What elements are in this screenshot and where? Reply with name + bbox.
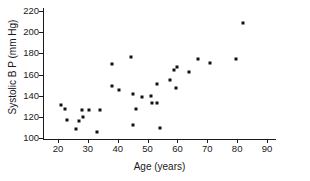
y-tick-mark bbox=[39, 53, 43, 54]
y-tick-label: 140 bbox=[23, 91, 39, 101]
data-point bbox=[234, 57, 237, 60]
data-point bbox=[130, 55, 133, 58]
y-tick-label: 100 bbox=[23, 133, 39, 143]
data-point bbox=[134, 108, 137, 111]
x-tick-label: 20 bbox=[53, 144, 64, 154]
data-point bbox=[59, 104, 62, 107]
data-point bbox=[174, 87, 177, 90]
data-point bbox=[82, 115, 85, 118]
y-tick-label: 120 bbox=[23, 112, 39, 122]
data-point bbox=[242, 21, 245, 24]
data-point bbox=[149, 94, 152, 97]
data-point bbox=[74, 128, 77, 131]
x-axis-title: Age (years) bbox=[43, 162, 276, 172]
y-tick-label: 220 bbox=[23, 6, 39, 16]
x-tick-label: 30 bbox=[83, 144, 94, 154]
y-axis-title: Systolic B P (mm Hg) bbox=[8, 2, 18, 132]
data-point bbox=[158, 127, 161, 130]
y-tick-label: 180 bbox=[23, 49, 39, 59]
x-tick-label: 90 bbox=[262, 144, 273, 154]
data-point bbox=[151, 102, 154, 105]
x-tick-label: 70 bbox=[202, 144, 213, 154]
plot-area: 100120140160180200220 2030405060708090 bbox=[43, 8, 276, 140]
y-tick-label: 200 bbox=[23, 28, 39, 38]
data-point bbox=[88, 109, 91, 112]
y-tick-mark bbox=[39, 32, 43, 33]
data-point bbox=[110, 85, 113, 88]
data-point bbox=[155, 83, 158, 86]
data-point bbox=[118, 89, 121, 92]
data-point bbox=[98, 109, 101, 112]
x-tick-label: 80 bbox=[232, 144, 243, 154]
data-point bbox=[188, 71, 191, 74]
data-point bbox=[77, 119, 80, 122]
y-tick-mark bbox=[39, 75, 43, 76]
y-tick-mark bbox=[39, 117, 43, 118]
x-tick-label: 50 bbox=[142, 144, 153, 154]
y-tick-label: 160 bbox=[23, 70, 39, 80]
x-axis-line bbox=[43, 139, 276, 140]
y-tick-mark bbox=[39, 11, 43, 12]
data-point bbox=[95, 130, 98, 133]
data-point bbox=[131, 92, 134, 95]
data-point bbox=[80, 109, 83, 112]
x-tick-label: 60 bbox=[172, 144, 183, 154]
data-point bbox=[173, 69, 176, 72]
data-point bbox=[140, 95, 143, 98]
data-point bbox=[168, 78, 171, 81]
data-point bbox=[110, 62, 113, 65]
data-point bbox=[65, 118, 68, 121]
data-point bbox=[197, 57, 200, 60]
data-point bbox=[176, 66, 179, 69]
data-point bbox=[131, 124, 134, 127]
x-tick-label: 40 bbox=[112, 144, 123, 154]
data-point bbox=[155, 102, 158, 105]
y-tick-mark bbox=[39, 138, 43, 139]
data-point bbox=[209, 61, 212, 64]
data-point bbox=[64, 108, 67, 111]
y-tick-mark bbox=[39, 96, 43, 97]
scatter-plot-figure: 100120140160180200220 2030405060708090 A… bbox=[0, 0, 310, 181]
y-axis-line bbox=[43, 8, 44, 140]
